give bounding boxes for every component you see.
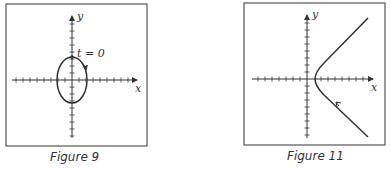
figure-11-y-label: y bbox=[311, 8, 319, 21]
figure-9: y x t = 0 bbox=[6, 4, 147, 146]
figure-11-x-label: x bbox=[371, 81, 378, 94]
figure-9-start-point bbox=[70, 55, 74, 59]
figure-9-frame bbox=[6, 4, 147, 146]
figure-11-direction-arrow-icon bbox=[336, 102, 341, 107]
figure-9-x-label: x bbox=[135, 82, 142, 95]
figures-canvas: y x t = 0 y x bbox=[0, 0, 391, 172]
figure-9-annotation: t = 0 bbox=[77, 47, 105, 60]
figure-9-caption: Figure 9 bbox=[50, 150, 99, 164]
figure-11-frame bbox=[244, 3, 385, 145]
figure-11-hyperbola-curve bbox=[315, 18, 368, 137]
figure-11: y x bbox=[244, 3, 385, 145]
figure-9-y-label: y bbox=[76, 10, 84, 23]
figure-11-caption: Figure 11 bbox=[287, 149, 344, 163]
